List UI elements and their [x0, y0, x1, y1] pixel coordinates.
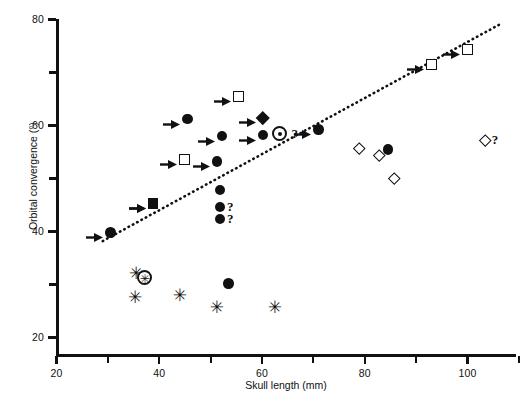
x-tick-100 [466, 356, 468, 364]
uncertainty-question-mark: ? [492, 133, 499, 146]
data-point-asterisk: ✳ [172, 287, 187, 302]
x-axis-line [56, 354, 516, 357]
scatter-plot-figure: 2040608020406080100 Orbital convergence … [0, 0, 531, 413]
data-point-open-diamond [354, 142, 366, 154]
x-tick-label-40: 40 [139, 367, 179, 379]
data-point-filled-circle [215, 214, 226, 225]
data-point-asterisk: ✳ [209, 299, 224, 314]
x-tick-minor-30 [107, 356, 109, 363]
data-point-open-diamond [373, 149, 385, 161]
data-point-open-square [426, 59, 437, 70]
value-arrow-icon [129, 199, 146, 208]
data-point-filled-circle [313, 124, 324, 135]
data-point-filled-circle [212, 156, 223, 167]
data-point-filled-circle [383, 144, 394, 155]
data-point-bullseye [272, 126, 287, 141]
x-tick-label-100: 100 [448, 367, 488, 379]
value-arrow-icon [214, 92, 231, 101]
value-arrow-icon [129, 199, 146, 208]
data-point-filled-circle [217, 131, 228, 142]
data-point-filled-square [148, 198, 159, 209]
y-tick-minor-50 [49, 177, 56, 179]
value-arrow-icon [239, 131, 256, 140]
y-tick-label-80: 80 [14, 13, 44, 25]
value-arrow-icon [443, 45, 460, 54]
value-arrow-icon [198, 132, 215, 141]
data-point-filled-circle [258, 130, 269, 141]
value-arrow-icon [193, 157, 210, 166]
value-arrow-icon [86, 228, 103, 237]
plot-area: ????✳✳✳✳✳✳ [0, 0, 531, 413]
data-point-filled-circle [105, 227, 116, 238]
value-arrow-icon [160, 155, 177, 164]
x-axis-title: Skull length (mm) [56, 379, 516, 391]
x-tick-label-60: 60 [242, 367, 282, 379]
x-tick-minor-90 [415, 356, 417, 363]
value-arrow-icon [407, 60, 424, 69]
y-axis-line [56, 19, 59, 357]
x-tick-minor-50 [210, 356, 212, 363]
data-point-filled-circle [182, 114, 193, 125]
y-tick-label-20: 20 [14, 331, 44, 343]
y-tick-60 [48, 124, 56, 126]
x-tick-80 [364, 356, 366, 364]
data-point-asterisk: ✳ [129, 265, 144, 280]
y-tick-minor-70 [49, 71, 56, 73]
y-tick-40 [48, 230, 56, 232]
data-point-asterisk: ✳ [267, 299, 282, 314]
data-point-filled-circle [148, 198, 159, 209]
data-point-filled-diamond [256, 111, 269, 124]
y-axis-title: Orbital convergence (°) [27, 91, 39, 261]
y-tick-80 [48, 18, 56, 20]
uncertainty-question-mark: ? [227, 212, 234, 225]
y-tick-minor-30 [49, 283, 56, 285]
x-tick-minor-70 [312, 356, 314, 363]
data-point-open-square [179, 154, 190, 165]
data-point-open-diamond [389, 172, 401, 184]
x-tick-minor-110 [518, 356, 520, 363]
x-tick-60 [261, 356, 263, 364]
data-point-filled-circle [215, 202, 226, 213]
trend-line [0, 0, 531, 413]
y-tick-20 [48, 336, 56, 338]
data-point-filled-circle [223, 278, 234, 289]
value-arrow-icon [294, 125, 311, 134]
data-point-filled-circle [215, 185, 226, 196]
data-point-circled-asterisk: ✳ [137, 270, 152, 285]
x-tick-label-20: 20 [37, 367, 77, 379]
x-tick-40 [158, 356, 160, 364]
data-point-open-square [233, 91, 244, 102]
value-arrow-icon [239, 113, 256, 122]
value-arrow-icon [163, 115, 180, 124]
data-point-asterisk: ✳ [128, 289, 143, 304]
x-tick-20 [55, 356, 57, 364]
data-point-open-diamond [479, 134, 491, 146]
uncertainty-question-mark: ? [291, 127, 298, 140]
uncertainty-question-mark: ? [227, 200, 234, 213]
data-point-open-square [462, 44, 473, 55]
x-tick-label-80: 80 [345, 367, 385, 379]
